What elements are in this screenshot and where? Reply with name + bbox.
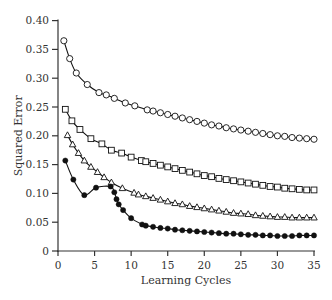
data-point-circle-filled (289, 233, 294, 238)
data-point-circle-open (73, 70, 79, 76)
data-point-square-open (165, 164, 171, 170)
data-point-square-open (150, 161, 156, 167)
data-point-square-open (194, 171, 200, 177)
data-point-circle-filled (224, 231, 229, 236)
data-point-circle-filled (297, 233, 302, 238)
x-tick-label: 5 (91, 259, 98, 271)
data-point-circle-open (172, 113, 178, 119)
y-axis: 00.050.100.150.200.250.300.350.40 (26, 14, 58, 256)
y-axis-title: Squared Error (12, 95, 25, 177)
data-point-circle-filled (187, 228, 192, 233)
x-tick-label: 35 (307, 259, 320, 271)
data-point-circle-filled (93, 185, 98, 190)
data-point-square-open (179, 167, 185, 173)
data-point-circle-filled (202, 229, 207, 234)
data-point-circle-open (194, 118, 200, 124)
x-tick-label: 0 (55, 259, 62, 271)
data-point-square-open (289, 186, 295, 192)
series-layer (61, 38, 317, 239)
data-point-square-open (282, 185, 288, 191)
data-point-triangle-open (69, 141, 75, 147)
data-point-circle-open (144, 107, 150, 113)
data-point-square-open (108, 147, 114, 153)
x-tick-label: 15 (161, 259, 174, 271)
data-point-square-open (88, 136, 94, 142)
data-point-circle-filled (275, 233, 280, 238)
data-point-circle-filled (311, 233, 316, 238)
x-axis: 05101520253035 (55, 251, 321, 271)
data-point-circle-filled (260, 233, 265, 238)
data-point-circle-filled (143, 223, 148, 228)
data-point-circle-open (209, 122, 215, 128)
data-point-circle-filled (238, 232, 243, 237)
data-point-square-open (69, 118, 75, 124)
data-point-circle-open (282, 133, 288, 139)
data-point-circle-open (67, 56, 73, 62)
series-open-circles (61, 38, 317, 143)
data-point-circle-filled (114, 197, 119, 202)
data-point-square-open (245, 180, 251, 186)
data-point-circle-filled (304, 233, 309, 238)
data-point-square-open (296, 186, 302, 192)
data-point-square-open (119, 150, 125, 156)
data-point-square-open (128, 154, 134, 160)
y-tick-label: 0 (42, 245, 49, 257)
x-axis-title: Learning Cycles (141, 274, 232, 287)
data-point-square-open (238, 179, 244, 185)
data-point-square-open (143, 159, 149, 165)
data-point-square-open (260, 182, 266, 188)
data-point-circle-filled (82, 193, 87, 198)
data-point-circle-open (296, 135, 302, 141)
data-point-circle-open (132, 103, 138, 109)
y-tick-label: 0.25 (26, 101, 49, 113)
learning-curve-chart: 00.050.100.150.200.250.300.350.40 051015… (0, 0, 332, 300)
data-point-square-open (62, 106, 68, 112)
x-tick-label: 25 (234, 259, 247, 271)
data-point-square-open (99, 141, 105, 147)
data-point-circle-open (230, 126, 236, 132)
data-point-square-open (77, 127, 83, 133)
data-point-circle-filled (129, 216, 134, 221)
data-point-circle-filled (165, 226, 170, 231)
data-point-circle-filled (150, 224, 155, 229)
data-point-square-open (304, 187, 310, 193)
data-point-circle-open (260, 130, 266, 136)
data-point-circle-filled (158, 225, 163, 230)
data-point-circle-open (157, 110, 163, 116)
data-point-square-open (201, 173, 207, 179)
data-point-circle-open (187, 117, 193, 123)
data-point-circle-filled (246, 232, 251, 237)
data-point-circle-filled (194, 229, 199, 234)
data-point-square-open (223, 177, 229, 183)
data-point-triangle-open (94, 169, 100, 175)
data-point-square-open (231, 178, 237, 184)
data-point-circle-open (245, 128, 251, 134)
data-point-circle-filled (108, 184, 113, 189)
data-point-circle-open (179, 115, 185, 121)
data-point-circle-open (311, 136, 317, 142)
y-tick-label: 0.40 (26, 14, 49, 26)
data-point-square-open (216, 176, 222, 182)
y-tick-label: 0.20 (26, 129, 49, 141)
data-point-triangle-open (101, 174, 107, 180)
data-point-circle-filled (282, 233, 287, 238)
data-point-circle-filled (63, 158, 68, 163)
data-point-circle-open (238, 127, 244, 133)
data-point-circle-open (216, 123, 222, 129)
data-point-circle-open (252, 129, 258, 135)
y-tick-label: 0.05 (26, 216, 49, 228)
x-tick-label: 20 (198, 259, 211, 271)
data-point-circle-filled (120, 208, 125, 213)
data-point-circle-open (223, 125, 229, 131)
data-point-square-open (172, 166, 178, 172)
data-point-square-open (311, 187, 317, 193)
data-point-circle-open (274, 133, 280, 139)
data-point-triangle-open (64, 132, 70, 138)
data-point-circle-open (122, 100, 128, 106)
x-tick-label: 10 (124, 259, 137, 271)
data-point-circle-open (165, 111, 171, 117)
data-point-circle-filled (216, 231, 221, 236)
y-tick-label: 0.10 (26, 187, 49, 199)
y-tick-label: 0.35 (26, 43, 49, 55)
data-point-square-open (158, 162, 164, 168)
